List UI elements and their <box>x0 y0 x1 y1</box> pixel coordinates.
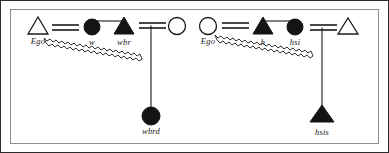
node-left-wbr-filled-triangle <box>114 17 134 34</box>
node-left-ego-open-triangle <box>28 17 48 34</box>
label-left-ego: Ego <box>18 37 58 46</box>
kinship-diagram-figure: Ego w wbr wbrd Ego h hsi hsis <box>0 0 389 153</box>
node-left-wbrd-filled-circle <box>142 107 160 125</box>
label-right-hsi: hsi <box>275 38 315 47</box>
link-double-ego-w <box>52 25 79 30</box>
link-double-wbr-spouse <box>139 23 166 28</box>
node-left-spouse-open-circle <box>169 18 186 35</box>
node-right-hsis-filled-triangle <box>310 105 334 122</box>
label-left-wbr: wbr <box>104 38 144 47</box>
node-right-ego-open-circle <box>200 18 217 35</box>
label-left-wbrd: wbrd <box>129 127 173 136</box>
label-right-ego: Ego <box>188 37 228 46</box>
node-left-w-filled-circle <box>84 19 100 35</box>
node-right-spouse-open-triangle <box>338 18 358 34</box>
label-right-hsis: hsis <box>300 128 344 137</box>
link-double-ego-h <box>222 23 249 28</box>
node-right-hsi-filled-circle <box>287 19 303 35</box>
link-double-hsi-spouse <box>310 25 337 30</box>
node-right-h-filled-triangle <box>253 17 273 34</box>
